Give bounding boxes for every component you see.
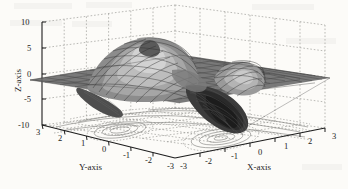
y-tick-label: -2	[145, 156, 152, 165]
x-axis-label: X-axis	[247, 163, 271, 172]
x-tick-label: 1	[284, 142, 288, 151]
plot-canvas	[0, 0, 348, 189]
y-tick-label: 1	[81, 139, 85, 148]
z-tick-label: -10	[18, 121, 29, 130]
y-tick-label: -1	[123, 151, 130, 160]
x-tick-label: -2	[205, 157, 212, 166]
z-tick-label: 0	[27, 70, 31, 79]
y-axis-label: Y-axis	[79, 163, 102, 172]
z-axis-label: Z-axis	[14, 69, 23, 92]
y-tick-label: -3	[167, 162, 174, 171]
figure-3d-surface-plot: 10 5 0 -5 -10 Z-axis 3 2 1 0 -1 -2 -3 Y-…	[0, 0, 348, 189]
y-tick-label: 0	[102, 145, 106, 154]
y-tick-label: 3	[36, 128, 40, 137]
x-tick-label: 0	[258, 148, 262, 157]
x-tick-label: -3	[180, 162, 187, 171]
z-tick-label: 5	[27, 44, 31, 53]
z-tick-label: 10	[21, 18, 30, 27]
z-tick-label: -5	[24, 95, 31, 104]
x-tick-label: 3	[332, 132, 336, 141]
x-tick-label: -1	[231, 152, 238, 161]
y-tick-label: 2	[58, 134, 62, 143]
x-tick-label: 2	[308, 137, 312, 146]
